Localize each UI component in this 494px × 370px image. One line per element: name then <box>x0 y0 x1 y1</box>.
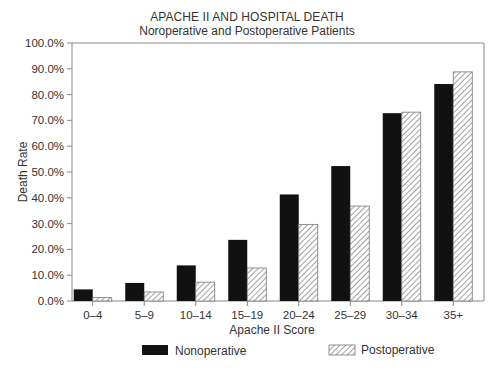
y-tick-label: 50.0% <box>31 166 64 178</box>
x-tick-label: 5–9 <box>135 309 154 321</box>
bar-postoperative <box>196 282 215 301</box>
x-tick-label: 25–29 <box>334 309 366 321</box>
bar-postoperative <box>299 224 318 301</box>
bar-nonoperative <box>125 283 144 301</box>
bar-nonoperative <box>177 265 196 301</box>
y-tick-label: 90.0% <box>31 63 64 75</box>
bar-nonoperative <box>331 166 350 301</box>
x-axis-title: Apache II Score <box>229 323 315 337</box>
y-tick-label: 30.0% <box>31 218 64 230</box>
bars <box>74 72 473 301</box>
y-axis-title: Death Rate <box>16 141 30 202</box>
y-tick-label: 0.0% <box>38 295 64 307</box>
bar-nonoperative <box>280 194 299 301</box>
x-tick-label: 35+ <box>443 309 463 321</box>
legend-label-nonoperative: Nonoperative <box>175 344 247 358</box>
y-tick-label: 40.0% <box>31 192 64 204</box>
x-tick-label: 30–34 <box>386 309 419 321</box>
x-tick-label: 15–19 <box>231 309 263 321</box>
bar-nonoperative <box>74 289 93 301</box>
legend-swatch-nonoperative <box>142 345 168 355</box>
x-tick-label: 0–4 <box>83 309 103 321</box>
bar-postoperative <box>350 206 369 301</box>
bar-nonoperative <box>434 84 453 301</box>
y-tick-label: 20.0% <box>31 243 64 255</box>
bar-postoperative <box>247 268 266 301</box>
y-axis: 0.0%10.0%20.0%30.0%40.0%50.0%60.0%70.0%8… <box>25 37 72 307</box>
plot-frame <box>72 43 484 301</box>
y-tick-label: 70.0% <box>31 114 64 126</box>
bar-postoperative <box>402 112 421 301</box>
y-tick-label: 80.0% <box>31 89 64 101</box>
bar-postoperative <box>453 72 472 301</box>
bar-postoperative <box>93 298 112 301</box>
legend-swatch-postoperative <box>329 345 355 355</box>
bar-chart: 0.0%10.0%20.0%30.0%40.0%50.0%60.0%70.0%8… <box>0 0 494 370</box>
y-tick-label: 60.0% <box>31 140 64 152</box>
x-axis: 0–45–910–1415–1920–2425–2930–3435+ <box>83 301 463 321</box>
y-tick-label: 100.0% <box>25 37 64 49</box>
bar-nonoperative <box>383 113 402 301</box>
y-tick-label: 10.0% <box>31 269 64 281</box>
bar-postoperative <box>144 292 163 301</box>
legend: Nonoperative Postoperative <box>142 343 435 358</box>
x-tick-label: 10–14 <box>180 309 213 321</box>
x-tick-label: 20–24 <box>283 309 316 321</box>
bar-nonoperative <box>228 240 247 301</box>
legend-label-postoperative: Postoperative <box>361 343 435 357</box>
